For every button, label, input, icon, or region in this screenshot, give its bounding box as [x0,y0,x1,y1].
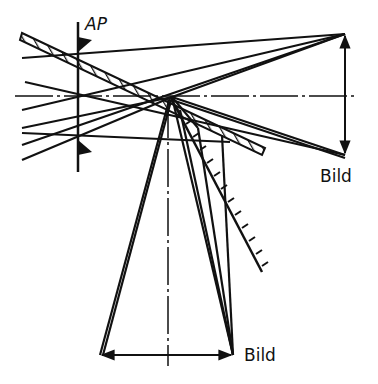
first-mirror [20,33,265,155]
aperture-label: AP [84,14,108,34]
rays-to-bottom-image [100,97,233,355]
bottom-image-arrow: Bild [102,345,276,365]
bottom-image-label: Bild [244,345,276,365]
right-image-arrow: Bild [320,36,352,186]
optical-diagram: AP Bild Bild [0,0,378,384]
right-image-label: Bild [320,166,352,186]
